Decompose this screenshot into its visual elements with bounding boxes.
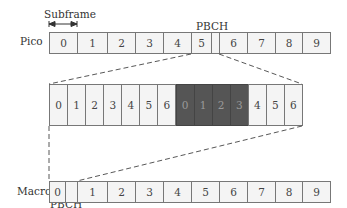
subframe-span-arrow <box>49 21 77 27</box>
zoom-line-top-left <box>49 54 191 84</box>
zoom-line-bottom-right <box>77 126 302 181</box>
connector-lines <box>0 0 347 208</box>
zoom-line-top-right <box>219 54 302 84</box>
